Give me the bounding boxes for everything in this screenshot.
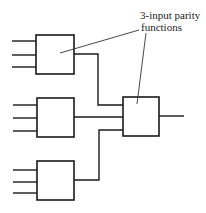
parity-gate-1 [36, 35, 74, 74]
gate-2-inputs [13, 105, 37, 131]
gate-1-output-wire [74, 54, 123, 105]
parity-gate-output [123, 97, 159, 136]
gate-3-output-wire [74, 130, 123, 180]
parity-tree-diagram: 3-input parity functions [0, 0, 206, 213]
parity-gate-2 [37, 98, 74, 137]
annotation-line-2: functions [141, 21, 182, 33]
leader-line-gate-output [137, 33, 146, 104]
annotation-line-1: 3-input parity [140, 9, 201, 21]
gate-1-inputs [12, 41, 36, 67]
gate-3-inputs [13, 170, 37, 193]
parity-gate-3 [37, 161, 74, 200]
